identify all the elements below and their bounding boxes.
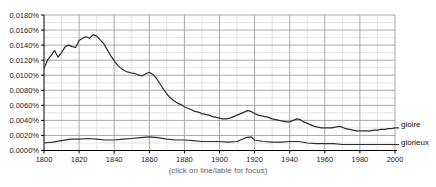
x-tick-label: 1960 <box>316 155 333 164</box>
y-tick-label: 0.0100% <box>9 71 39 80</box>
y-tick-label: 0.0040% <box>9 116 39 125</box>
y-tick-label: 0.0180% <box>9 11 39 20</box>
x-tick-label: 1920 <box>246 155 263 164</box>
ngram-chart: 0.0000%0.0020%0.0040%0.0060%0.0080%0.010… <box>0 0 436 187</box>
series-label-glorieux[interactable]: glorieux <box>401 138 429 147</box>
x-tick-label: 1820 <box>71 155 88 164</box>
x-tick-label: 1980 <box>352 155 369 164</box>
y-tick-label: 0.0080% <box>9 86 39 95</box>
chart-caption: (click on line/lable for focus) <box>0 166 436 175</box>
y-tick-label: 0.0160% <box>9 26 39 35</box>
y-tick-label: 0.0000% <box>9 146 39 155</box>
plot-area: 0.0000%0.0020%0.0040%0.0060%0.0080%0.010… <box>0 0 436 187</box>
series-label-gloire[interactable]: gloire <box>401 120 421 129</box>
x-tick-label: 1900 <box>211 155 228 164</box>
x-tick-label: 1880 <box>176 155 193 164</box>
x-tick-label: 1800 <box>36 155 53 164</box>
x-tick-label: 1840 <box>106 155 123 164</box>
x-tick-label: 1940 <box>281 155 298 164</box>
x-tick-label: 1860 <box>141 155 158 164</box>
y-tick-label: 0.0120% <box>9 56 39 65</box>
x-tick-label: 2000 <box>387 155 404 164</box>
y-tick-label: 0.0060% <box>9 101 39 110</box>
y-tick-label: 0.0020% <box>9 131 39 140</box>
y-tick-label: 0.0140% <box>9 41 39 50</box>
